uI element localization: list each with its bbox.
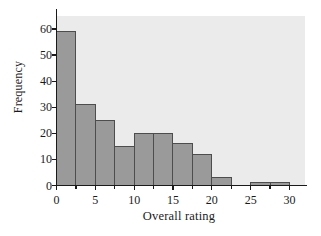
histogram-bar [134, 133, 153, 185]
histogram-bar [95, 120, 114, 185]
histogram-figure: Frequency 0102030405060 051015202530 Ove… [0, 0, 321, 236]
histogram-bar [173, 144, 192, 186]
histogram-bar [115, 146, 134, 185]
histogram-bar [57, 32, 76, 186]
plot-area [0, 0, 321, 236]
histogram-bar [76, 105, 95, 186]
histogram-bar [212, 178, 231, 186]
histogram-bar [154, 133, 173, 185]
histogram-bar [192, 154, 211, 185]
